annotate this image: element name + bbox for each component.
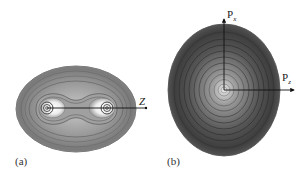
panel-a-contours bbox=[16, 66, 136, 152]
figure-graphics bbox=[0, 0, 308, 173]
px-axis-label-sub: x bbox=[233, 15, 236, 23]
pz-axis-label: Pz bbox=[282, 71, 291, 86]
px-axis-label: Px bbox=[227, 8, 236, 23]
pz-axis-label-sub: z bbox=[288, 78, 291, 86]
z-axis-label: Z bbox=[139, 95, 145, 107]
figure: Z Px Pz (a) (b) bbox=[0, 0, 308, 173]
panel-b-label: (b) bbox=[167, 155, 180, 167]
panel-a-label: (a) bbox=[15, 155, 27, 167]
